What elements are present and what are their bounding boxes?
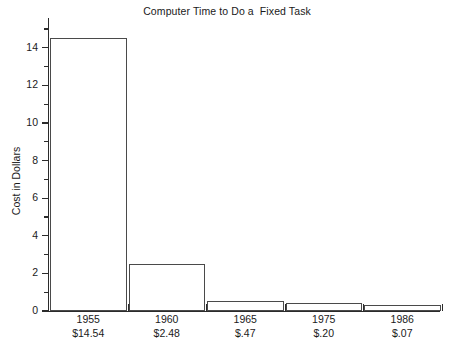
bar-1960	[129, 264, 206, 311]
y-tick-label: 2	[10, 266, 38, 278]
x-axis-year-label: 1960	[127, 313, 207, 327]
x-axis-cost-label: $14.54	[48, 327, 128, 341]
bar-1986	[364, 305, 441, 311]
y-tick-minor	[44, 104, 49, 105]
y-tick-label: 6	[10, 191, 38, 203]
x-axis-year-label: 1965	[205, 313, 285, 327]
y-tick-label: 10	[10, 116, 38, 128]
y-tick-minor	[44, 28, 49, 29]
y-tick-minor	[44, 254, 49, 255]
bar-1965	[207, 301, 284, 311]
x-axis-cost-label: $2.48	[127, 327, 207, 341]
y-tick-major	[42, 47, 49, 48]
chart-title: Computer Time to Do a Fixed Task	[0, 5, 454, 17]
x-axis-label-group: 1986$.07	[362, 313, 442, 340]
y-tick-major	[42, 310, 49, 311]
y-tick-minor	[44, 292, 49, 293]
x-axis-year-label: 1975	[284, 313, 364, 327]
x-axis-year-label: 1955	[48, 313, 128, 327]
x-axis-cost-label: $.07	[362, 327, 442, 341]
y-tick-major	[42, 160, 49, 161]
y-tick-minor	[44, 141, 49, 142]
y-tick-label: 8	[10, 154, 38, 166]
bar-chart: Computer Time to Do a Fixed Task Cost in…	[0, 0, 454, 352]
y-axis-label: Cost in Dollars	[10, 121, 22, 241]
y-tick-minor	[44, 179, 49, 180]
y-tick-major	[42, 122, 49, 123]
x-axis-category-tick	[442, 304, 443, 311]
x-axis-year-label: 1986	[362, 313, 442, 327]
y-tick-minor	[44, 66, 49, 67]
bar-1955	[50, 38, 127, 311]
x-axis-label-group: 1960$2.48	[127, 313, 207, 340]
y-tick-label: 0	[10, 304, 38, 316]
x-axis-cost-label: $.47	[205, 327, 285, 341]
x-axis-label-group: 1955$14.54	[48, 313, 128, 340]
bar-1975	[286, 303, 363, 311]
y-tick-minor	[44, 216, 49, 217]
y-tick-label: 14	[10, 41, 38, 53]
y-tick-major	[42, 235, 49, 236]
y-tick-label: 12	[10, 78, 38, 90]
y-tick-major	[42, 85, 49, 86]
y-tick-major	[42, 273, 49, 274]
x-axis-cost-label: $.20	[284, 327, 364, 341]
y-tick-label: 4	[10, 229, 38, 241]
x-axis-label-group: 1965$.47	[205, 313, 285, 340]
y-tick-major	[42, 198, 49, 199]
x-axis-label-group: 1975$.20	[284, 313, 364, 340]
